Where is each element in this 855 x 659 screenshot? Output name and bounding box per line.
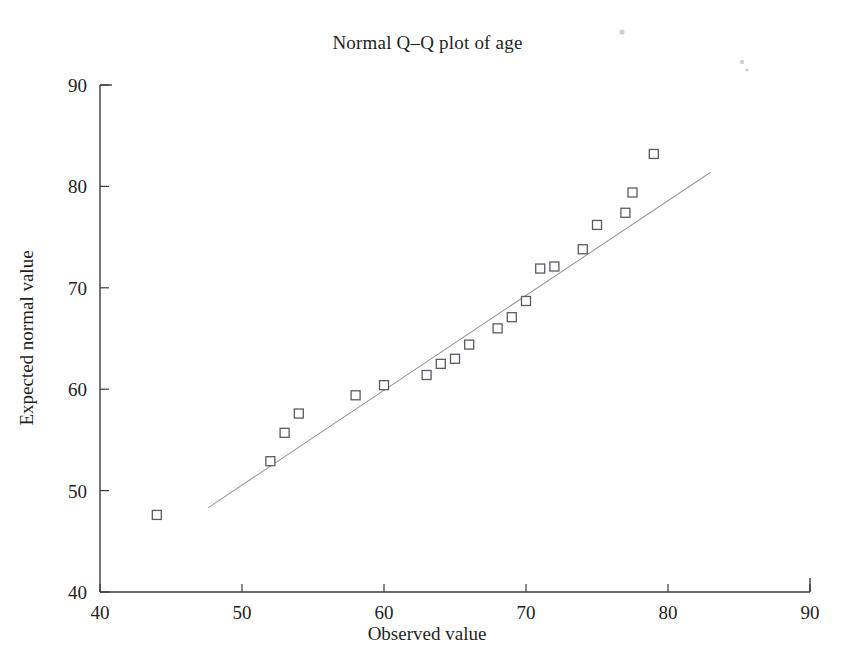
x-tick-label: 80 — [659, 602, 678, 623]
data-point-marker — [493, 324, 502, 333]
data-point-marker — [465, 340, 474, 349]
chart-canvas: 405060708090405060708090 Observed value … — [0, 0, 855, 659]
y-tick-label: 50 — [68, 481, 87, 502]
y-tick-label: 90 — [68, 75, 87, 96]
data-point-marker — [422, 371, 431, 380]
data-point-marker — [649, 149, 658, 158]
data-point-marker — [294, 409, 303, 418]
reference-line — [208, 172, 711, 508]
x-axis-title: Observed value — [368, 623, 487, 644]
data-point-marker — [507, 313, 516, 322]
data-point-marker — [436, 359, 445, 368]
y-tick-label: 40 — [68, 582, 87, 603]
data-point-series — [152, 149, 658, 519]
data-point-marker — [380, 381, 389, 390]
data-point-marker — [550, 262, 559, 271]
data-point-marker — [152, 510, 161, 519]
x-tick-label: 50 — [233, 602, 252, 623]
scan-speck — [745, 68, 748, 71]
plot-axes — [100, 85, 810, 592]
data-point-marker — [280, 428, 289, 437]
x-tick-label: 40 — [91, 602, 110, 623]
scan-speck — [619, 29, 624, 34]
data-point-marker — [628, 188, 637, 197]
qq-plot-figure: Normal Q–Q plot of age 40506070809040506… — [0, 0, 855, 659]
y-tick-label: 60 — [68, 379, 87, 400]
y-axis-title: Expected normal value — [16, 250, 37, 425]
data-point-marker — [536, 264, 545, 273]
y-tick-label: 70 — [68, 278, 87, 299]
x-tick-label: 70 — [517, 602, 536, 623]
y-tick-label: 80 — [68, 176, 87, 197]
axis-ticks: 405060708090405060708090 — [68, 75, 820, 623]
data-point-marker — [593, 220, 602, 229]
data-point-marker — [578, 245, 587, 254]
scan-speck — [740, 60, 744, 64]
x-tick-label: 60 — [375, 602, 394, 623]
data-point-marker — [266, 457, 275, 466]
normal-reference-line — [208, 172, 711, 508]
data-point-marker — [621, 208, 630, 217]
data-point-marker — [451, 354, 460, 363]
x-tick-label: 90 — [801, 602, 820, 623]
data-point-marker — [351, 391, 360, 400]
scan-artifacts — [619, 29, 748, 71]
data-point-marker — [522, 296, 531, 305]
